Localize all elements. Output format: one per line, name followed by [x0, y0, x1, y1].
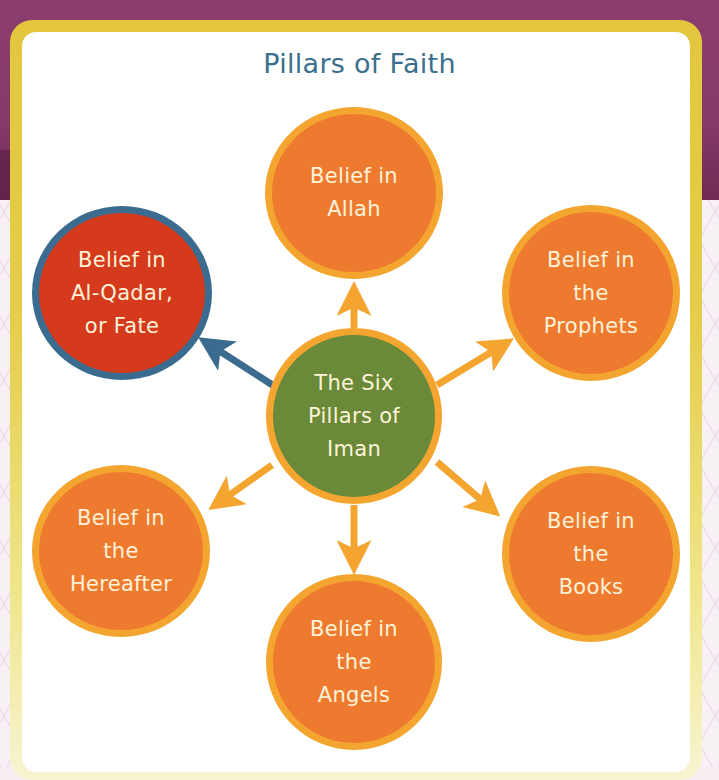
- pillar-node-angels: Belief in the Angels: [266, 574, 442, 750]
- arrow-to-hereafter: [214, 465, 272, 506]
- pillar-label: Belief in Al-Qadar, or Fate: [71, 244, 173, 343]
- center-node-label: The Six Pillars of Iman: [308, 367, 400, 466]
- pillar-label: Belief in the Books: [547, 505, 635, 604]
- pillar-node-books: Belief in the Books: [502, 466, 680, 642]
- pillar-node-hereafter: Belief in the Hereafter: [32, 465, 210, 637]
- arrow-to-books: [437, 462, 495, 512]
- arrow-to-fate: [204, 341, 274, 386]
- pillar-label: Belief in the Angels: [310, 613, 398, 712]
- pillar-node-fate: Belief in Al-Qadar, or Fate: [32, 206, 212, 380]
- pillar-label: Belief in the Prophets: [544, 244, 638, 343]
- pillar-label: Belief in Allah: [310, 160, 398, 226]
- pillar-node-prophets: Belief in the Prophets: [502, 205, 680, 381]
- arrow-to-prophets: [437, 342, 508, 385]
- pillar-node-allah: Belief in Allah: [265, 107, 443, 279]
- pillar-label: Belief in the Hereafter: [70, 502, 172, 601]
- center-node-six-pillars: The Six Pillars of Iman: [266, 328, 442, 504]
